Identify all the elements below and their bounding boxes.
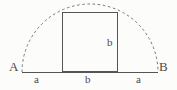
rectangle-height-label-b: b [107,37,113,48]
endpoint-label-b: B [159,60,168,73]
segment-label-middle-b: b [85,74,91,85]
segment-label-left-a: a [34,74,39,85]
segment-label-right-a: a [136,74,141,85]
semicircle-arc [22,4,158,72]
endpoint-label-a: A [9,60,18,73]
geometry-figure: A B a b a b [0,0,177,90]
